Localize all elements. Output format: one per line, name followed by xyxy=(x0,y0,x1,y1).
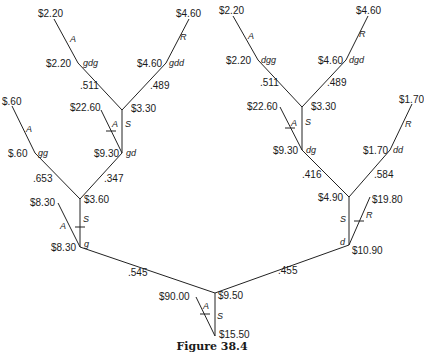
prob-gd: .347 xyxy=(104,174,123,184)
node-gg-alt-label: A xyxy=(26,125,32,134)
node-gd-cont-label: S xyxy=(125,120,131,129)
prob-gdd: .489 xyxy=(150,81,169,91)
prob-dd: .584 xyxy=(374,170,393,180)
node-d-state: d xyxy=(340,238,345,247)
node-dgd-state: dgd xyxy=(349,56,364,65)
node-gd-alt-value: $22.60 xyxy=(70,103,101,113)
node-d-alt-label: R xyxy=(366,211,373,220)
node-gg-end-value: $.60 xyxy=(2,97,21,107)
node-dgd-value: $4.60 xyxy=(318,56,343,66)
node-gdd-end-value: $4.60 xyxy=(176,9,201,19)
root-value: $9.50 xyxy=(218,291,243,301)
node-dg-value: $9.30 xyxy=(273,146,298,156)
node-dd-state: dd xyxy=(393,146,403,155)
node-gd-value: $9.30 xyxy=(94,149,119,159)
node-dgg-label: A xyxy=(248,32,254,41)
node-gg-value: $.60 xyxy=(8,149,27,159)
node-gd-next-value: $3.30 xyxy=(131,104,156,114)
prob-dg: .416 xyxy=(302,170,321,180)
node-gdg-value: $2.20 xyxy=(46,59,71,69)
prob-dgg: .511 xyxy=(260,78,279,88)
figure-caption: Figure 38.4 xyxy=(0,340,424,353)
prob-left: .545 xyxy=(128,268,147,278)
node-d-next-value: $4.90 xyxy=(318,193,343,203)
node-dg-alt-label: A xyxy=(291,119,297,128)
prob-dgd: .489 xyxy=(327,78,346,88)
root-alt-label: A xyxy=(203,302,209,311)
node-dgg-state: dgg xyxy=(261,56,276,65)
root-stop-label: S xyxy=(217,312,223,321)
node-gdg-label: A xyxy=(70,35,76,44)
node-dgd-label: R xyxy=(359,30,366,39)
node-gdg-end-value: $2.20 xyxy=(38,9,63,19)
node-gdd-label: R xyxy=(180,33,187,42)
node-d-alt-value: $19.80 xyxy=(372,195,403,205)
node-dd-label: R xyxy=(405,120,412,129)
node-g-cont-label: S xyxy=(83,215,89,224)
node-d-cont-label: S xyxy=(340,215,346,224)
node-g-alt-value: $8.30 xyxy=(30,198,55,208)
root-alt-value: $90.00 xyxy=(159,292,190,302)
node-dg-state: dg xyxy=(306,146,316,155)
decision-tree-lines xyxy=(0,0,424,357)
node-g-value: $8.30 xyxy=(51,243,76,253)
node-gg-state: gg xyxy=(38,149,48,158)
node-dd-end-value: $1.70 xyxy=(399,95,424,105)
node-dg-next-value: $3.30 xyxy=(311,102,336,112)
node-dg-alt-value: $22.60 xyxy=(247,102,278,112)
node-g-alt-label: A xyxy=(60,222,66,231)
prob-right: .455 xyxy=(278,266,297,276)
node-g-state: g xyxy=(84,240,89,249)
node-gd-state: gd xyxy=(126,149,136,158)
node-dg-cont-label: S xyxy=(305,118,311,127)
prob-gdg: .511 xyxy=(80,81,99,91)
node-dgd-end-value: $4.60 xyxy=(356,6,381,16)
node-dgg-end-value: $2.20 xyxy=(219,6,244,16)
node-gdd-value: $4.60 xyxy=(137,59,162,69)
node-gd-alt-label: A xyxy=(112,120,118,129)
node-dd-value: $1.70 xyxy=(363,146,388,156)
node-d-value: $10.90 xyxy=(352,246,383,256)
prob-gg: .653 xyxy=(33,174,52,184)
node-gdd-state: gdd xyxy=(169,59,184,68)
node-g-next-value: $3.60 xyxy=(84,195,109,205)
node-gdg-state: gdg xyxy=(83,59,98,68)
root-stop-value: $15.50 xyxy=(219,330,250,340)
node-dgg-value: $2.20 xyxy=(226,56,251,66)
